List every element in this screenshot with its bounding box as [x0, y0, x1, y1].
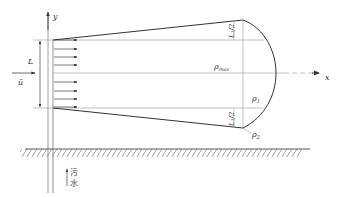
- rho2-label: ρ2: [251, 130, 260, 140]
- inflow-label-char2: 水: [70, 178, 78, 188]
- half-width-top-label: L₁/2: [228, 23, 236, 39]
- rho2-leader: [243, 128, 251, 133]
- x-axis-label: x: [325, 73, 330, 82]
- inflow-label-char1: 污: [70, 167, 78, 177]
- rho-max-label: ρmax: [213, 62, 229, 72]
- plume-upper-boundary: [53, 20, 243, 40]
- svg-text:L₁/2: L₁/2: [228, 23, 236, 39]
- rho1-label: ρ1: [251, 94, 260, 104]
- plume-diagram: y L x ū L₁/2 L₁/2 ρmax ρ1 ρ: [0, 0, 338, 197]
- y-axis-label: y: [52, 12, 58, 21]
- plume-lower-boundary: [53, 108, 243, 128]
- svg-text:L₁/2: L₁/2: [228, 111, 236, 127]
- ground-hatch: [20, 149, 302, 157]
- diagram-canvas: y L x ū L₁/2 L₁/2 ρmax ρ1 ρ: [0, 0, 338, 197]
- velocity-profile-arrows: [54, 40, 77, 107]
- width-label: L: [27, 57, 33, 66]
- half-width-bottom-label: L₁/2: [228, 111, 236, 127]
- velocity-label: ū: [18, 78, 23, 87]
- plume-front-arc: [243, 20, 276, 128]
